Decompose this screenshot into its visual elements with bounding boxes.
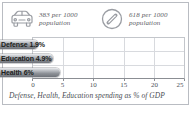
stat-vehicles-text: 383 per 1000 population [39, 11, 78, 27]
bar-label-defense: Defense 1.9% [0, 40, 45, 49]
phone-circle-icon [98, 7, 126, 31]
x-tick-label-20: 20 [151, 81, 158, 89]
stats-row: 383 per 1000 population 618 per 1000 pop… [3, 3, 188, 35]
bar-series: Defense 1.9% Education 4.9% Health 6% [0, 37, 185, 84]
x-tick-label-5: 5 [61, 81, 65, 89]
chart-caption: Defense, Health, Education spending as %… [9, 91, 165, 100]
stat-phones-value: 618 per 1000 [129, 11, 168, 19]
infographic-panel: 383 per 1000 population 618 per 1000 pop… [2, 2, 189, 105]
x-tick-label-0: 0 [31, 81, 35, 89]
x-tick-label-15: 15 [120, 81, 127, 89]
stat-phones-text: 618 per 1000 population [129, 11, 168, 27]
x-tick-label-10: 10 [90, 81, 97, 89]
stat-card-vehicles: 383 per 1000 population [3, 7, 95, 31]
x-tick-25 [184, 79, 185, 81]
bar-label-education: Education 4.9% [0, 54, 51, 63]
bar-label-health: Health 6% [0, 68, 34, 77]
stat-phones-unit: population [129, 19, 168, 27]
x-axis: 0 5 10 15 20 25 [32, 79, 185, 89]
stat-vehicles-unit: population [39, 19, 78, 27]
stat-card-phones: 618 per 1000 population [95, 7, 188, 31]
bar-chart: Defense 1.9% Education 4.9% Health 6% 0 … [8, 37, 185, 84]
x-tick-label-25: 25 [177, 81, 184, 89]
car-icon [8, 7, 36, 31]
stat-vehicles-value: 383 per 1000 [39, 11, 78, 19]
